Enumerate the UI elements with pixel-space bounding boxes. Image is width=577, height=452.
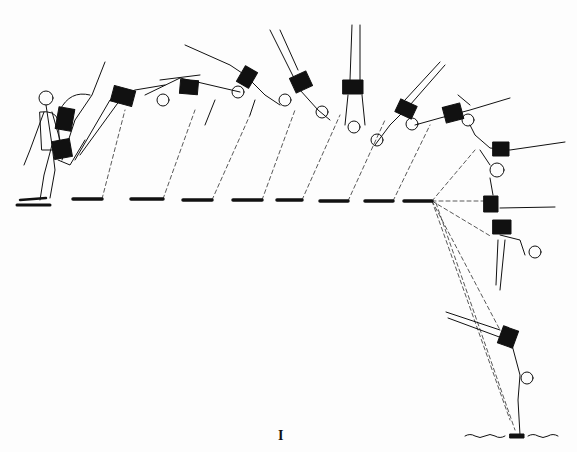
diver-frame-7: [345, 25, 365, 133]
trunks-1: [52, 139, 73, 160]
trunks-13: [497, 326, 518, 348]
trunks-11: [484, 196, 498, 212]
trunks-6: [289, 71, 312, 93]
water-surface-icon: [465, 434, 558, 438]
diver-frame-13: [446, 312, 533, 435]
diver-frame-11: [490, 163, 555, 208]
figure-label: I: [278, 428, 283, 444]
springboard-icon: [17, 198, 50, 205]
illustration-canvas: [0, 0, 577, 452]
board-level-dashes: [73, 199, 432, 201]
dive-sequence-illustration: I: [0, 0, 577, 452]
trunks-3: [110, 85, 135, 106]
trunks-7: [343, 80, 363, 94]
trunks-2: [55, 107, 75, 131]
projection-lines: [102, 110, 515, 430]
trunks-10: [493, 142, 509, 156]
trunks-12: [493, 220, 511, 234]
trunks-9: [442, 103, 464, 123]
trunks-4: [179, 79, 198, 95]
diver-frame-12: [496, 235, 541, 290]
diver-frame-10: [462, 114, 565, 165]
